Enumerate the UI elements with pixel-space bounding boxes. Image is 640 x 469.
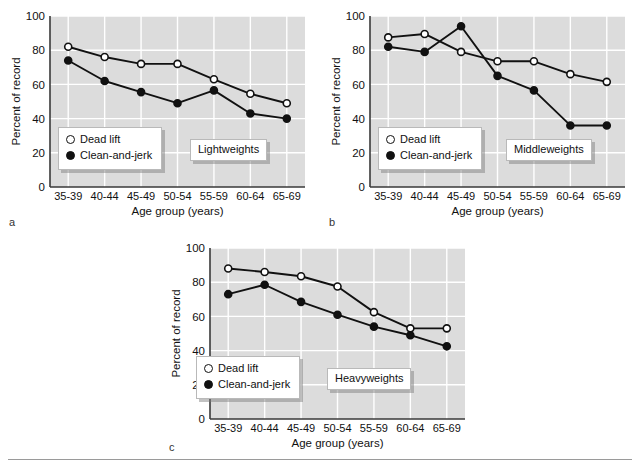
y-tick-label: 100: [186, 242, 205, 254]
open-circle-icon: [204, 364, 213, 373]
data-point-dead-lift: [421, 30, 428, 37]
y-tick-label: 100: [26, 10, 45, 22]
y-tick-label: 80: [352, 44, 365, 56]
x-tick-label: 45-49: [127, 190, 155, 202]
data-point-clean-and-jerk: [225, 291, 232, 298]
chart-svg-b: 02040608010035-3940-4445-4950-5455-5960-…: [320, 0, 640, 232]
annotation-lightweights: Lightweights: [190, 139, 267, 161]
x-axis-title: Age group (years): [451, 205, 543, 217]
data-point-dead-lift: [458, 48, 465, 55]
x-tick-label: 35-39: [374, 190, 402, 202]
data-point-dead-lift: [334, 283, 341, 290]
legend-entry-dead-lift: Dead lift: [386, 132, 472, 148]
data-point-dead-lift: [247, 90, 254, 97]
data-point-dead-lift: [65, 43, 72, 50]
data-point-dead-lift: [494, 58, 501, 65]
data-point-clean-and-jerk: [174, 100, 181, 107]
data-point-dead-lift: [407, 325, 414, 332]
data-point-clean-and-jerk: [370, 323, 377, 330]
legend-c: Dead lift Clean-and-jerk: [196, 356, 300, 399]
data-point-clean-and-jerk: [494, 72, 501, 79]
x-tick-label: 65-69: [593, 190, 621, 202]
data-point-dead-lift: [261, 268, 268, 275]
x-tick-label: 35-39: [54, 190, 82, 202]
legend-label-clean-and-jerk: Clean-and-jerk: [80, 148, 152, 164]
y-axis-title: Percent of record: [170, 289, 182, 377]
data-point-clean-and-jerk: [298, 298, 305, 305]
x-tick-label: 40-44: [251, 422, 279, 434]
y-tick-label: 40: [352, 113, 365, 125]
legend-entry-clean-and-jerk: Clean-and-jerk: [204, 377, 290, 393]
filled-circle-icon: [386, 151, 395, 160]
data-point-clean-and-jerk: [385, 43, 392, 50]
chart-svg-a: 02040608010035-3940-4445-4950-5455-5960-…: [0, 0, 320, 232]
legend-entry-clean-and-jerk: Clean-and-jerk: [386, 148, 472, 164]
panel-letter-c: c: [169, 441, 175, 453]
data-point-clean-and-jerk: [407, 332, 414, 339]
data-point-clean-and-jerk: [210, 87, 217, 94]
data-point-dead-lift: [101, 54, 108, 61]
data-point-dead-lift: [138, 60, 145, 67]
legend-label-dead-lift: Dead lift: [80, 132, 120, 148]
x-axis-title: Age group (years): [131, 205, 223, 217]
y-axis-title: Percent of record: [10, 57, 22, 145]
x-tick-label: 50-54: [323, 422, 351, 434]
data-point-clean-and-jerk: [65, 57, 72, 64]
data-point-dead-lift: [370, 309, 377, 316]
open-circle-icon: [386, 135, 395, 144]
plot-area-a: 02040608010035-3940-4445-4950-5455-5960-…: [0, 0, 320, 236]
data-point-clean-and-jerk: [101, 77, 108, 84]
plot-area-b: 02040608010035-3940-4445-4950-5455-5960-…: [320, 0, 640, 236]
open-circle-icon: [66, 135, 75, 144]
y-tick-label: 20: [352, 147, 365, 159]
data-point-dead-lift: [567, 71, 574, 78]
y-tick-label: 0: [359, 181, 365, 193]
chart-svg-c: 02040608010035-3940-4445-4950-5455-5960-…: [160, 234, 480, 459]
x-tick-label: 60-64: [236, 190, 264, 202]
x-tick-label: 40-44: [91, 190, 119, 202]
data-point-dead-lift: [174, 60, 181, 67]
x-tick-label: 40-44: [411, 190, 439, 202]
data-point-dead-lift: [225, 265, 232, 272]
y-tick-label: 60: [192, 311, 205, 323]
x-tick-label: 60-64: [396, 422, 424, 434]
legend-b: Dead lift Clean-and-jerk: [378, 127, 482, 170]
panel-letter-b: b: [329, 216, 335, 228]
y-tick-label: 60: [352, 79, 365, 91]
y-tick-label: 100: [346, 10, 365, 22]
x-tick-label: 50-54: [483, 190, 511, 202]
data-point-clean-and-jerk: [603, 122, 610, 129]
y-tick-label: 40: [192, 345, 205, 357]
legend-label-clean-and-jerk: Clean-and-jerk: [218, 377, 290, 393]
legend-label-dead-lift: Dead lift: [218, 361, 258, 377]
y-axis-title: Percent of record: [330, 57, 342, 145]
figure-bottom-rule: [8, 459, 632, 460]
data-point-clean-and-jerk: [261, 281, 268, 288]
x-tick-label: 60-64: [556, 190, 584, 202]
data-point-clean-and-jerk: [283, 115, 290, 122]
y-tick-label: 0: [39, 181, 45, 193]
data-point-dead-lift: [210, 76, 217, 83]
data-point-dead-lift: [443, 325, 450, 332]
data-point-clean-and-jerk: [567, 122, 574, 129]
legend-entry-dead-lift: Dead lift: [66, 132, 152, 148]
panel-letter-a: a: [9, 216, 15, 228]
x-tick-label: 45-49: [287, 422, 315, 434]
y-tick-label: 80: [192, 276, 205, 288]
annotation-middleweights: Middleweights: [506, 139, 592, 161]
y-tick-label: 0: [199, 413, 205, 425]
x-tick-label: 65-69: [273, 190, 301, 202]
data-point-dead-lift: [298, 273, 305, 280]
x-tick-label: 50-54: [163, 190, 191, 202]
x-tick-label: 45-49: [447, 190, 475, 202]
y-tick-label: 60: [32, 79, 45, 91]
data-point-clean-and-jerk: [443, 343, 450, 350]
data-point-dead-lift: [530, 58, 537, 65]
x-tick-label: 55-59: [200, 190, 228, 202]
x-tick-label: 35-39: [214, 422, 242, 434]
data-point-clean-and-jerk: [458, 23, 465, 30]
data-point-clean-and-jerk: [138, 89, 145, 96]
x-axis-title: Age group (years): [291, 437, 383, 449]
plot-area-c: 02040608010035-3940-4445-4950-5455-5960-…: [160, 234, 480, 463]
legend-a: Dead lift Clean-and-jerk: [58, 127, 162, 170]
